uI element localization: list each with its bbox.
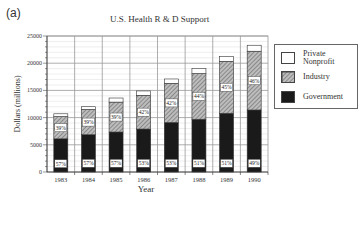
x-tick-label: 1983 [54,176,67,183]
grid [47,36,268,172]
percent-label: 39% [111,114,122,120]
bar-1985: 57%39% [109,98,123,172]
bar-1986: 53%42% [137,91,151,172]
bar-1990: 49%46% [247,45,261,172]
bar-segment-private-nonprofit [54,114,68,117]
percent-label: 51% [194,160,205,166]
legend-item-private-nonprofit: PrivateNonprofit [281,50,335,66]
bar-1984: 57%39% [81,107,95,172]
percent-label: 42% [139,109,150,115]
bar-segment-private-nonprofit [164,79,178,83]
bar-1983: 57%39% [54,114,68,172]
x-tick-label: 1986 [137,176,151,183]
y-tick-label: 20000 [27,60,42,66]
percent-label: 53% [166,160,177,166]
government-swatch [281,91,295,103]
percent-label: 46% [249,78,260,84]
bar-segment-private-nonprofit [247,45,261,51]
percent-label: 51% [222,160,233,166]
x-tick-label: 1987 [165,176,179,183]
legend-item-government: Government [281,91,343,103]
percent-label: 39% [56,125,67,131]
percent-label: 42% [166,100,177,106]
percent-label: 57% [111,160,122,166]
bar-1989: 51%45% [220,57,234,172]
x-tick-label: 1988 [192,176,205,183]
percent-label: 45% [222,84,233,90]
percent-label: 57% [83,160,94,166]
percent-label: 57% [56,161,67,167]
bar-segment-private-nonprofit [109,98,123,102]
bar-1987: 53%42% [164,79,178,172]
x-tick-label: 1990 [248,176,261,183]
x-axis-label: Year [138,184,155,194]
industry-swatch [281,71,295,83]
y-axis-label: Dollars (millions) [13,75,22,132]
percent-label: 44% [194,93,205,99]
legend-label: Government [303,93,343,101]
bar-segment-private-nonprofit [81,107,95,110]
y-tick-label: 5000 [30,142,42,148]
legend-label-line2: Nonprofit [303,58,335,66]
percent-label: 49% [249,160,260,166]
bar-segment-private-nonprofit [220,57,234,62]
bar-segment-private-nonprofit [192,69,206,74]
y-tick-label: 15000 [27,87,42,93]
legend: PrivateNonprofit Industry Government [274,44,358,109]
private-nonprofit-swatch [281,52,295,64]
bar-segment-private-nonprofit [137,91,151,95]
percent-label: 39% [83,119,94,125]
percent-label: 53% [139,160,150,166]
y-tick-label: 0 [39,169,42,175]
x-tick-label: 1985 [110,176,123,183]
x-tick-label: 1989 [220,176,233,183]
legend-item-industry: Industry [281,71,330,83]
legend-label: Industry [303,73,330,81]
bar-1988: 51%44% [192,69,206,172]
x-tick-label: 1984 [82,176,96,183]
y-tick-label: 25000 [27,33,42,39]
y-tick-label: 10000 [27,115,42,121]
